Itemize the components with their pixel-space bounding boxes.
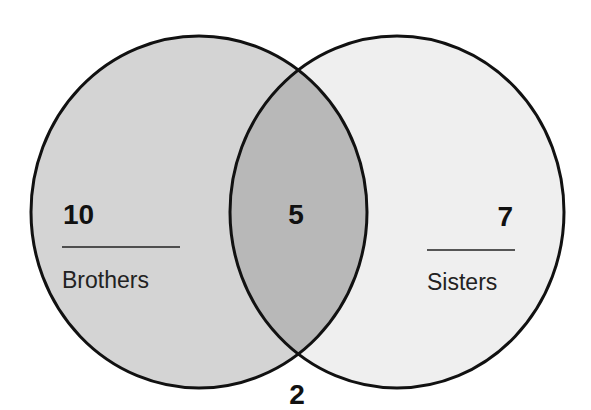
- brothers-label: Brothers: [62, 267, 149, 293]
- intersection-count: 5: [288, 199, 304, 230]
- outside-count: 2: [289, 379, 305, 410]
- sisters-only-count: 7: [497, 201, 513, 232]
- sisters-label: Sisters: [427, 269, 497, 295]
- venn-diagram: 10 Brothers 5 7 Sisters 2: [0, 0, 591, 410]
- brothers-only-count: 10: [63, 199, 94, 230]
